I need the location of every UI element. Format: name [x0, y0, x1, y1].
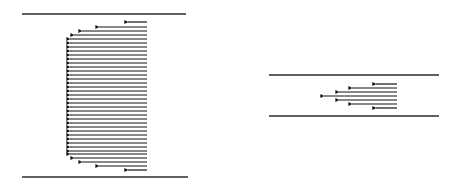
flow-profile-diagram [0, 0, 459, 191]
wide-channel-plug-flow [22, 14, 188, 177]
narrow-channel-parabolic-flow [269, 75, 439, 116]
diagram-canvas [0, 0, 459, 191]
